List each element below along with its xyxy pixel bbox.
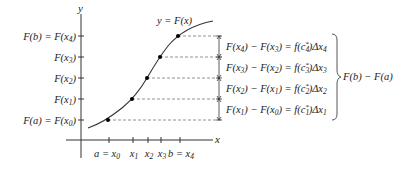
equation-3: F(x3) − F(x2) = f(c3*)Δx3 [225, 61, 327, 75]
brace-label: F(b) − F(a) [342, 71, 393, 83]
interval-bars [216, 36, 222, 120]
y-label-fb: F(b) = F(x4) [22, 31, 76, 44]
x-label-x3: x3 [157, 148, 167, 161]
equation-1: F(x1) − F(x0) = f(c1*)Δx1 [225, 103, 327, 117]
y-tick-labels: F(b) = F(x4) F(x3) F(x2) F(x1) F(a) = F(… [22, 31, 76, 128]
equation-4: F(x4) − F(x3) = f(c4*)Δx4 [225, 40, 327, 54]
y-label-fx3: F(x3) [53, 52, 76, 65]
curve-label: y = F(x) [156, 15, 193, 27]
y-label-fx1: F(x1) [53, 94, 76, 107]
equations: F(x4) − F(x3) = f(c4*)Δx4 F(x3) − F(x2) … [225, 40, 327, 117]
right-brace [332, 34, 341, 120]
x-label-x1: x1 [129, 148, 138, 161]
x-label-a: a = x0 [94, 148, 120, 161]
y-label-fx2: F(x2) [53, 73, 76, 86]
x-tick-labels: a = x0 x1 x2 x3 b = x4 [94, 148, 194, 161]
y-label-fa: F(a) = F(x0) [22, 115, 76, 128]
x-axis-label: x [214, 133, 220, 145]
equation-2: F(x2) − F(x1) = f(c2*)Δx2 [225, 82, 327, 96]
x-label-x2: x2 [144, 148, 154, 161]
y-axis-label: y [77, 2, 83, 14]
curve-F [88, 21, 213, 128]
dashed-guides [108, 36, 222, 120]
ftc-diagram: y x F(b) = F(x4) F(x3) F(x2) F(x1) F(a) … [0, 0, 408, 172]
x-label-b: b = x4 [168, 148, 194, 161]
